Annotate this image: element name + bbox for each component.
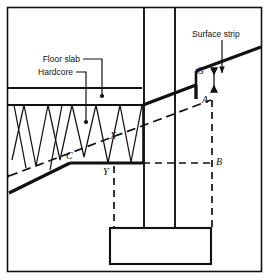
point-label-C: C bbox=[66, 150, 73, 161]
floor-slab-label: Floor slab bbox=[43, 54, 81, 64]
diagram-root: Floor slab Hardcore Surface strip G A B … bbox=[0, 0, 270, 280]
point-label-B: B bbox=[216, 156, 222, 167]
floor-slab-leader-dot bbox=[100, 94, 104, 98]
hardcore-leader-dot bbox=[84, 120, 88, 124]
point-label-X: X bbox=[109, 130, 117, 141]
footing bbox=[110, 228, 211, 264]
hardcore-label: Hardcore bbox=[38, 67, 73, 77]
surface-strip-label: Surface strip bbox=[192, 29, 240, 39]
point-label-G: G bbox=[197, 65, 204, 76]
point-label-A: A bbox=[201, 94, 209, 105]
foundation-section-diagram: Floor slab Hardcore Surface strip G A B … bbox=[0, 0, 270, 280]
